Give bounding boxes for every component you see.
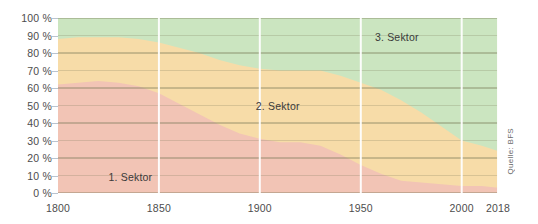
y-tick-label-50: 50 % <box>0 101 52 111</box>
y-tick-label-60: 60 % <box>0 83 52 93</box>
series-label-1: 1. Sektor <box>108 171 152 183</box>
y-tick-label-10: 10 % <box>0 171 52 181</box>
y-tick-label-100: 100 % <box>0 13 52 23</box>
x-axis: 180018501900195020002018 <box>0 196 538 218</box>
y-tick-label-30: 30 % <box>0 136 52 146</box>
y-tick-mark-0 <box>52 193 58 194</box>
y-tick-label-90: 90 % <box>0 31 52 41</box>
y-tick-label-80: 80 % <box>0 48 52 58</box>
stacked-area-chart: 0 %10 %20 %30 %40 %50 %60 %70 %80 %90 %1… <box>0 0 538 224</box>
x-tick-label-2000: 2000 <box>450 202 474 214</box>
x-tick-label-1800: 1800 <box>46 202 70 214</box>
y-tick-label-20: 20 % <box>0 153 52 163</box>
x-tick-label-1950: 1950 <box>349 202 373 214</box>
series-label-3: 3. Sektor <box>375 31 419 43</box>
y-tick-label-40: 40 % <box>0 118 52 128</box>
series-label-2: 2. Sektor <box>256 100 300 112</box>
x-tick-label-1900: 1900 <box>248 202 272 214</box>
y-tick-label-70: 70 % <box>0 66 52 76</box>
x-tick-label-1850: 1850 <box>147 202 171 214</box>
source-note: Quelle: BFS <box>506 128 515 174</box>
x-tick-label-2018: 2018 <box>486 202 510 214</box>
y-axis: 0 %10 %20 %30 %40 %50 %60 %70 %80 %90 %1… <box>0 0 52 224</box>
